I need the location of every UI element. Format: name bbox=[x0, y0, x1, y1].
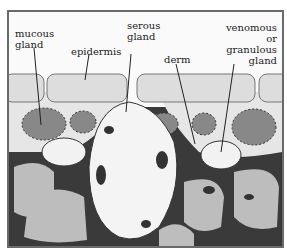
label-line: gland bbox=[215, 55, 277, 66]
label-derm: derm bbox=[164, 54, 191, 65]
label-line: gland bbox=[127, 31, 160, 42]
label-line: venomous bbox=[215, 22, 277, 33]
label-line: mucous bbox=[15, 28, 54, 39]
label-epidermis: epidermis bbox=[71, 46, 121, 57]
label-line: or granulous bbox=[215, 33, 277, 55]
label-serous-gland: serous gland bbox=[127, 20, 160, 42]
label-line: gland bbox=[15, 39, 54, 50]
label-line: serous bbox=[127, 20, 160, 31]
label-mucous-gland: mucous gland bbox=[15, 28, 54, 50]
diagram-frame: mucous gland epidermis serous gland derm… bbox=[7, 10, 284, 248]
label-venomous-gland: venomous or granulous gland bbox=[215, 22, 277, 66]
